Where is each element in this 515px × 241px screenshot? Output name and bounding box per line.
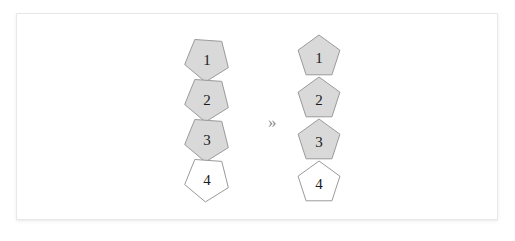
- figure-stage: » 12341234: [17, 14, 499, 221]
- pentagon-shape: [298, 119, 340, 159]
- screenshot-root: » 12341234: [0, 0, 515, 241]
- pentagon-shape: [185, 39, 229, 81]
- pentagon-shape: [185, 79, 229, 121]
- pentagon-shape: [298, 35, 340, 75]
- double-chevron-right-icon: »: [268, 114, 277, 131]
- right-stack-pentagon-3: 3: [291, 113, 347, 169]
- right-stack-pentagon-2: 2: [291, 71, 347, 127]
- pentagon-label: 1: [203, 52, 211, 68]
- figure-card: » 12341234: [16, 13, 498, 220]
- pentagon-shape: [298, 77, 340, 117]
- pentagon-shape: [185, 119, 229, 161]
- pentagon-label: 2: [203, 92, 211, 108]
- pentagon-label: 2: [315, 92, 323, 108]
- pentagon-label: 3: [315, 134, 323, 150]
- pentagon-label: 4: [203, 172, 211, 188]
- left-stack-pentagon-1: 1: [178, 30, 236, 88]
- left-stack-pentagon-2: 2: [178, 70, 236, 128]
- pentagon-label: 1: [315, 50, 323, 66]
- pentagon-label: 3: [203, 132, 211, 148]
- pentagon-shape: [298, 161, 340, 201]
- pentagon-shape: [185, 159, 229, 201]
- left-stack-pentagon-3: 3: [178, 110, 236, 168]
- right-stack-pentagon-4: 4: [291, 155, 347, 211]
- left-stack-pentagon-4: 4: [178, 150, 236, 208]
- pentagon-label: 4: [315, 176, 323, 192]
- right-stack-pentagon-1: 1: [291, 29, 347, 85]
